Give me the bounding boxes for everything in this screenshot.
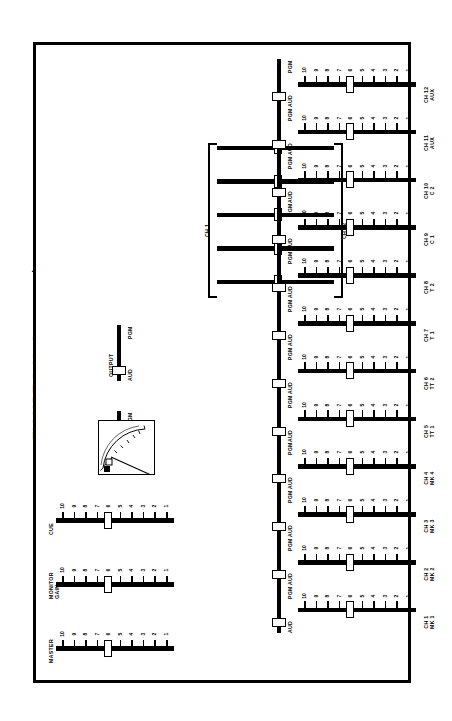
monitor-gain-fader[interactable]: 10987654321: [56, 573, 174, 595]
ch3-source-switch[interactable]: PGMAUD: [272, 489, 286, 537]
fader-scale-number: 6: [347, 353, 353, 361]
fader-scale-number: 1: [405, 496, 411, 504]
ch6-label: CH 6TT 2: [424, 377, 435, 390]
ch6-source-switch[interactable]: PGMAUD: [272, 346, 286, 394]
fader-knob[interactable]: [346, 315, 354, 332]
ch5-fader[interactable]: 10987654321: [298, 408, 416, 430]
fader-tick: [362, 315, 364, 322]
ch8-fader[interactable]: 10987654321: [298, 264, 416, 286]
fader-scale-number: 4: [370, 401, 376, 409]
fader-tick: [131, 640, 133, 647]
fader-knob[interactable]: [346, 171, 354, 188]
switch-cap[interactable]: [272, 379, 286, 388]
fader-knob[interactable]: [104, 640, 112, 657]
fader-knob[interactable]: [346, 554, 354, 571]
fader-knob[interactable]: [346, 267, 354, 284]
fader-knob[interactable]: [104, 576, 112, 593]
ch5-label: CH 5TT 1: [424, 424, 435, 437]
fader-knob[interactable]: [346, 506, 354, 523]
switch-cap[interactable]: [272, 618, 286, 627]
fader-tick: [339, 123, 341, 130]
ch3-label: CH 3MK 3: [424, 519, 435, 533]
switch-label-aud: AUD: [287, 621, 293, 633]
fader-scale-number: 8: [324, 257, 330, 265]
fader-tick: [396, 458, 398, 465]
fader-knob[interactable]: [346, 76, 354, 93]
fader-scale-number: 6: [347, 305, 353, 313]
ch3-fader[interactable]: 10987654321: [298, 503, 416, 525]
fader-scale-number: 3: [382, 66, 388, 74]
output-source-switch-label: OUTPUT: [108, 354, 114, 377]
ch5-source-switch[interactable]: PGMAUD: [272, 394, 286, 442]
fader-knob[interactable]: [346, 458, 354, 475]
ch8-source-switch[interactable]: PGMAUD: [272, 250, 286, 298]
fader-tick: [373, 362, 375, 369]
ch11-source-switch[interactable]: PGMAUD: [272, 107, 286, 155]
fader-scale-number: 5: [117, 566, 123, 574]
fader-scale-number: 10: [301, 162, 307, 170]
fader-tick: [362, 76, 364, 83]
ch10-source-switch[interactable]: PGMAUD: [272, 155, 286, 203]
fader-tick: [373, 267, 375, 274]
fader-knob[interactable]: [104, 512, 112, 529]
ch1-source-switch[interactable]: PGMAUD: [272, 585, 286, 633]
ch6-fader[interactable]: 10987654321: [298, 360, 416, 382]
fader-scale-number: 6: [347, 592, 353, 600]
fader-scale-number: 6: [105, 630, 111, 638]
ch12-source-switch[interactable]: PGMAUD: [272, 59, 286, 107]
switch-cap[interactable]: [272, 331, 286, 340]
fader-knob[interactable]: [346, 123, 354, 140]
ch1-fader[interactable]: 10987654321: [298, 599, 416, 621]
switch-cap[interactable]: [272, 92, 286, 101]
fader-tick: [316, 267, 318, 274]
cue-fader[interactable]: 10987654321: [56, 509, 174, 531]
switch-cap[interactable]: [272, 570, 286, 579]
fader-scale-number: 1: [405, 353, 411, 361]
fader-scale-number: 7: [336, 162, 342, 170]
ch7-source-switch[interactable]: PGMAUD: [272, 298, 286, 346]
ch10-label: CH 10C 2: [424, 182, 435, 198]
switch-label-pgm: PGM: [287, 299, 293, 312]
fader-tick: [304, 554, 306, 561]
ch7-label: CH 7T 1: [424, 329, 435, 342]
ch4-source-switch[interactable]: PGMAUD: [272, 441, 286, 489]
switch-label-pgm: PGM: [287, 108, 293, 121]
switch-cap[interactable]: [272, 283, 286, 292]
fader-knob[interactable]: [346, 601, 354, 618]
ch11-fader[interactable]: 10987654321: [298, 121, 416, 143]
fader-tick: [396, 171, 398, 178]
fader-scale-number: 5: [117, 630, 123, 638]
fader-knob[interactable]: [346, 410, 354, 427]
switch-label-aud: AUD: [287, 95, 293, 107]
ch2-fader[interactable]: 10987654321: [298, 551, 416, 573]
fader-track: [298, 82, 416, 87]
fader-scale-number: 9: [313, 257, 319, 265]
fader-track: [298, 464, 416, 469]
fader-scale-number: 3: [382, 544, 388, 552]
fader-scale-number: 6: [347, 162, 353, 170]
switch-cap[interactable]: [272, 427, 286, 436]
fader-tick: [327, 458, 329, 465]
fader-tick: [316, 219, 318, 226]
fader-scale-number: 1: [163, 502, 169, 510]
ch9-source-switch[interactable]: PGMAUD: [272, 202, 286, 250]
fader-scale-number: 6: [105, 566, 111, 574]
fader-tick: [143, 640, 145, 647]
ch7-fader[interactable]: 10987654321: [298, 312, 416, 334]
switch-cap[interactable]: [272, 188, 286, 197]
master-fader[interactable]: 10987654321: [56, 637, 174, 659]
switch-cap[interactable]: [272, 474, 286, 483]
switch-cap[interactable]: [272, 140, 286, 149]
switch-cap[interactable]: [272, 235, 286, 244]
ch2-source-switch[interactable]: PGMAUD: [272, 537, 286, 585]
ch4-fader[interactable]: 10987654321: [298, 455, 416, 477]
switch-cap[interactable]: [272, 522, 286, 531]
ch9-fader[interactable]: 10987654321: [298, 216, 416, 238]
fader-knob[interactable]: [346, 219, 354, 236]
ch10-fader[interactable]: 10987654321: [298, 169, 416, 191]
fader-tick: [74, 576, 76, 583]
fader-knob[interactable]: [346, 362, 354, 379]
fader-track: [298, 273, 416, 278]
ch12-fader[interactable]: 10987654321: [298, 73, 416, 95]
fader-tick: [339, 219, 341, 226]
